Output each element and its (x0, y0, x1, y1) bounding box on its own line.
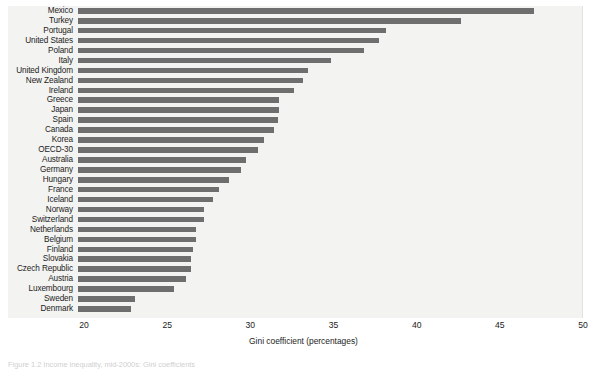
bar-track (78, 165, 607, 175)
bar-track (78, 175, 607, 185)
bar (78, 88, 294, 94)
category-label: United Kingdom (0, 66, 78, 76)
category-label: Ireland (0, 86, 78, 96)
bar-row: Austria (0, 274, 607, 284)
bar-row: Hungary (0, 175, 607, 185)
category-label: Czech Republic (0, 264, 78, 274)
category-label: Korea (0, 135, 78, 145)
bar (78, 78, 303, 84)
bar (78, 157, 246, 163)
bar-track (78, 155, 607, 165)
category-label: OECD-30 (0, 145, 78, 155)
category-label: Japan (0, 105, 78, 115)
bar-row: OECD-30 (0, 145, 607, 155)
category-label: Sweden (0, 294, 78, 304)
bar (78, 107, 279, 113)
bar-rows: MexicoTurkeyPortugalUnited StatesPolandI… (0, 6, 607, 318)
bar-track (78, 205, 607, 215)
category-label: France (0, 185, 78, 195)
bar-row: Iceland (0, 195, 607, 205)
bar (78, 68, 308, 74)
bar-row: Poland (0, 46, 607, 56)
bar-track (78, 145, 607, 155)
category-label: Belgium (0, 235, 78, 245)
x-tick-label: 25 (162, 320, 172, 330)
category-label: Denmark (0, 304, 78, 314)
bar-track (78, 46, 607, 56)
category-label: Turkey (0, 16, 78, 26)
category-label: Poland (0, 46, 78, 56)
x-tick-label: 35 (329, 320, 339, 330)
bar-track (78, 284, 607, 294)
bar-track (78, 125, 607, 135)
bar-row: Spain (0, 115, 607, 125)
bar-row: Norway (0, 205, 607, 215)
bar-track (78, 135, 607, 145)
x-tick-label: 50 (578, 320, 588, 330)
category-label: Spain (0, 115, 78, 125)
bar-track (78, 86, 607, 96)
bar-track (78, 105, 607, 115)
bar (78, 147, 258, 153)
category-label: Greece (0, 95, 78, 105)
category-label: Switzerland (0, 215, 78, 225)
category-label: Portugal (0, 26, 78, 36)
bar-row: Korea (0, 135, 607, 145)
bar-track (78, 115, 607, 125)
category-label: Austria (0, 274, 78, 284)
bar-row: Greece (0, 95, 607, 105)
figure-caption: Figure 1.2 Income inequality, mid-2000s:… (8, 360, 598, 369)
bar (78, 97, 279, 103)
bar-row: Belgium (0, 235, 607, 245)
bar-row: Portugal (0, 26, 607, 36)
bar-track (78, 6, 607, 16)
bar-row: Sweden (0, 294, 607, 304)
bar-track (78, 56, 607, 66)
bar (78, 8, 534, 14)
bar-row: Japan (0, 105, 607, 115)
bar-row: Finland (0, 245, 607, 255)
bar-track (78, 254, 607, 264)
bar (78, 58, 331, 64)
bar (78, 137, 264, 143)
category-label: Australia (0, 155, 78, 165)
bar (78, 197, 213, 203)
bar-track (78, 264, 607, 274)
bar-row: Czech Republic (0, 264, 607, 274)
x-axis-title: Gini coefficient (percentages) (0, 336, 607, 346)
bar-track (78, 294, 607, 304)
chart-figure: MexicoTurkeyPortugalUnited StatesPolandI… (0, 0, 607, 375)
bar-track (78, 36, 607, 46)
bar-track (78, 235, 607, 245)
bar-row: Denmark (0, 304, 607, 314)
bar-track (78, 245, 607, 255)
x-tick-label: 30 (246, 320, 256, 330)
bar (78, 177, 229, 183)
x-tick-label: 45 (495, 320, 505, 330)
bar (78, 18, 461, 24)
bar (78, 117, 278, 123)
bar (78, 286, 174, 292)
bar-track (78, 95, 607, 105)
bar (78, 38, 379, 44)
bar-track (78, 195, 607, 205)
category-label: Finland (0, 245, 78, 255)
category-label: Netherlands (0, 225, 78, 235)
bar (78, 217, 204, 223)
bar (78, 48, 364, 54)
x-tick-label: 40 (412, 320, 422, 330)
bar-row: Slovakia (0, 254, 607, 264)
category-label: Norway (0, 205, 78, 215)
bar-track (78, 215, 607, 225)
bar (78, 306, 131, 312)
category-label: Hungary (0, 175, 78, 185)
category-label: Iceland (0, 195, 78, 205)
bar-row: United Kingdom (0, 66, 607, 76)
bar-track (78, 274, 607, 284)
bar-row: Switzerland (0, 215, 607, 225)
category-label: Canada (0, 125, 78, 135)
bar-track (78, 26, 607, 36)
bar-track (78, 16, 607, 26)
bar-row: Turkey (0, 16, 607, 26)
bar (78, 247, 193, 253)
